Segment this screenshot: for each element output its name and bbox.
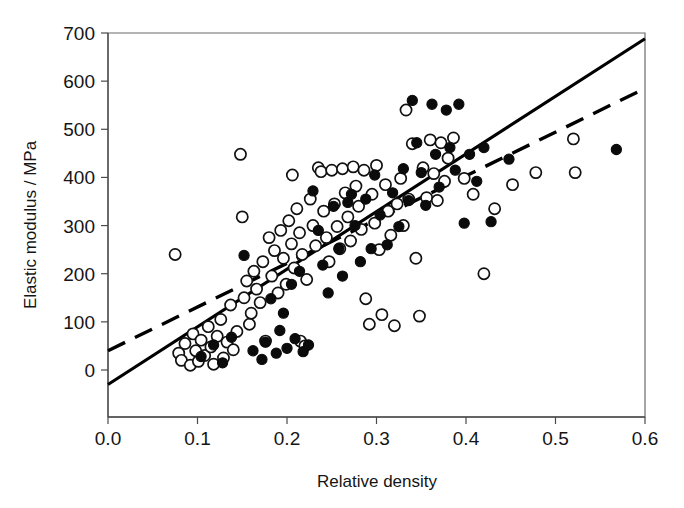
data-point-filled [196, 351, 206, 361]
x-axis-title: Relative density [317, 472, 438, 491]
data-point-filled [486, 217, 496, 227]
data-point-open [376, 309, 387, 320]
data-point-open [364, 319, 375, 330]
data-point-open [291, 203, 302, 214]
data-point-open [283, 215, 294, 226]
data-point-filled [328, 201, 338, 211]
data-point-open [294, 227, 305, 238]
y-tick-label: 300 [63, 216, 95, 237]
data-point-filled [450, 165, 460, 175]
data-point-open [468, 189, 479, 200]
scatter-plot: 0.00.10.20.30.40.50.6 010020030040050060… [0, 0, 684, 508]
data-point-open [385, 230, 396, 241]
data-point-open [170, 249, 181, 260]
data-point-filled [472, 176, 482, 186]
data-point-open [332, 221, 343, 232]
data-point-filled [382, 240, 392, 250]
data-point-open [371, 160, 382, 171]
data-point-open [432, 195, 443, 206]
data-point-filled [445, 142, 455, 152]
data-point-filled [464, 149, 474, 159]
data-point-filled [375, 210, 385, 220]
y-axis-tick-labels: 0100200300400500600700 [63, 23, 95, 381]
data-point-open [389, 320, 400, 331]
data-point-open [448, 132, 459, 143]
x-tick-label: 0.0 [95, 428, 121, 449]
data-point-open [568, 133, 579, 144]
data-point-open [326, 165, 337, 176]
data-point-open [241, 275, 252, 286]
data-point-open [425, 134, 436, 145]
data-point-filled [479, 142, 489, 152]
data-point-open [478, 268, 489, 279]
data-point-filled [346, 189, 356, 199]
data-points-filled [196, 95, 621, 368]
data-point-filled [275, 325, 285, 335]
data-point-open [570, 167, 581, 178]
data-point-open [287, 169, 298, 180]
data-point-open [507, 179, 518, 190]
data-point-open [275, 225, 286, 236]
data-point-open [315, 166, 326, 177]
y-tick-label: 100 [63, 312, 95, 333]
data-point-filled [278, 308, 288, 318]
data-point-open [459, 173, 470, 184]
data-point-open [251, 284, 262, 295]
data-point-open [255, 297, 266, 308]
data-point-open [244, 319, 255, 330]
data-point-open [489, 203, 500, 214]
data-point-filled [303, 340, 313, 350]
data-point-open [297, 249, 308, 260]
y-tick-label: 700 [63, 23, 95, 44]
data-point-filled [416, 168, 426, 178]
data-point-open [237, 211, 248, 222]
data-point-filled [459, 218, 469, 228]
x-tick-label: 0.5 [542, 428, 568, 449]
data-point-open [348, 161, 359, 172]
data-point-filled [421, 200, 431, 210]
data-point-filled [260, 337, 270, 347]
x-axis-tick-labels: 0.00.10.20.30.40.50.6 [95, 428, 658, 449]
data-point-filled [313, 225, 323, 235]
data-point-open [345, 235, 356, 246]
data-point-open [395, 173, 406, 184]
data-point-filled [427, 99, 437, 109]
data-point-open [238, 292, 249, 303]
data-point-filled [454, 99, 464, 109]
data-point-filled [294, 266, 304, 276]
data-point-open [225, 299, 236, 310]
data-point-filled [504, 154, 514, 164]
data-point-filled [434, 182, 444, 192]
data-point-open [391, 198, 402, 209]
y-tick-label: 0 [84, 360, 95, 381]
data-point-filled [318, 260, 328, 270]
data-point-open [443, 153, 454, 164]
data-point-open [358, 165, 369, 176]
data-point-open [286, 238, 297, 249]
y-tick-label: 500 [63, 119, 95, 140]
figure-container: 0.00.10.20.30.40.50.6 010020030040050060… [0, 0, 684, 508]
data-point-filled [394, 221, 404, 231]
data-point-filled [271, 348, 281, 358]
data-point-open [215, 314, 226, 325]
data-point-open [264, 232, 275, 243]
y-tick-label: 600 [63, 71, 95, 92]
data-point-open [257, 256, 268, 267]
data-point-filled [239, 250, 249, 260]
x-tick-label: 0.1 [184, 428, 210, 449]
data-point-filled [308, 186, 318, 196]
data-point-filled [412, 138, 422, 148]
y-tick-label: 200 [63, 264, 95, 285]
data-point-filled [366, 244, 376, 254]
data-point-filled [430, 149, 440, 159]
data-point-filled [286, 279, 296, 289]
data-point-open [360, 293, 371, 304]
data-point-open [248, 266, 259, 277]
data-point-open [337, 163, 348, 174]
data-point-filled [257, 354, 267, 364]
data-point-filled [209, 340, 219, 350]
data-point-open [342, 211, 353, 222]
x-tick-label: 0.4 [453, 428, 480, 449]
y-tick-label: 400 [63, 167, 95, 188]
data-point-filled [350, 220, 360, 230]
